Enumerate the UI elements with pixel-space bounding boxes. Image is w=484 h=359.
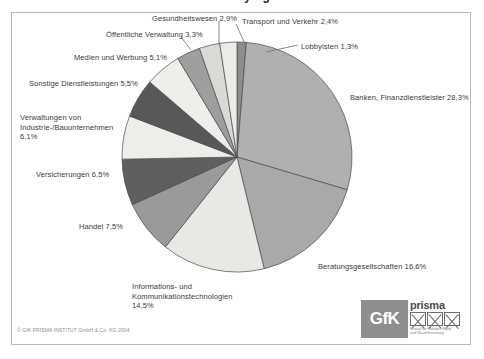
gfk-wordmark: GfK [361,300,408,338]
slice-label: Transport und Verkehr 2,4% [242,17,338,27]
slice-label: Banken, Finanzdienstleister 28,3% [350,93,469,103]
slice-label: Sonstige Dienstleistungen 5,5% [29,79,138,89]
pie-slices [122,42,352,272]
logo-tagline-line2: und Raumforschung [410,331,444,335]
slice-label: Versicherungen 6,5% [36,170,109,180]
slice-label: Gesundheitswesen 2,9% [152,14,237,24]
x-box-icon [427,312,443,326]
x-box-icon [444,312,460,326]
slice-label: Informations- und Kommunikationstechnolo… [132,282,250,311]
prisma-mark: prisma Institut für Handel, Stadt und Ra… [408,300,465,338]
gfk-prisma-logo: GfK prisma Institut für Handel, Stadt un… [361,300,465,338]
copyright-notice: © GfK PRISMA INSTITUT GmbH & Co. KG 2004 [17,327,130,333]
slice-label: Medien und Werbung 5,1% [74,53,167,63]
leader-line [236,24,245,44]
slice-label: Handel 7,5% [79,222,123,232]
chart-screenshot: Lobbying Gesundheitswesen 2,9%Transport … [0,0,484,359]
prisma-x-boxes [410,312,465,326]
slice-label: Beratungsgesellschaften 16,6% [318,262,426,272]
slice-label: Öffentliche Verwaltung 3,3% [106,30,203,40]
x-box-icon [410,312,426,326]
prisma-wordmark: prisma [410,300,465,312]
slice-label: Lobbyisten 1,3% [301,42,358,52]
slice-label: Verwaltungen von Industrie-/Bauunternehm… [20,113,132,142]
